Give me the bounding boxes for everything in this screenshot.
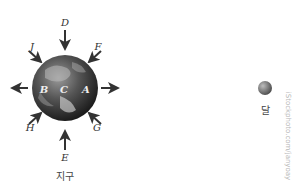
label-j: J xyxy=(30,42,34,52)
arrow-j xyxy=(29,51,41,62)
earth-moon-tide-diagram: D E F G H J B C A 지구 달 iStockphoto.com/j… xyxy=(0,0,299,192)
label-d: D xyxy=(61,18,69,28)
diagram-graphics xyxy=(0,0,299,192)
label-h: H xyxy=(26,123,35,133)
moon-label: 달 xyxy=(261,102,270,117)
arrow-f xyxy=(89,51,101,62)
label-g: G xyxy=(93,123,101,133)
moon xyxy=(258,81,272,95)
label-e: E xyxy=(61,153,68,163)
watermark: iStockphoto.com/janyoay xyxy=(284,92,292,180)
point-c: C xyxy=(60,85,68,95)
point-a: A xyxy=(82,85,90,95)
label-f: F xyxy=(95,42,102,52)
earth-label: 지구 xyxy=(56,168,74,183)
point-b: B xyxy=(40,85,48,95)
